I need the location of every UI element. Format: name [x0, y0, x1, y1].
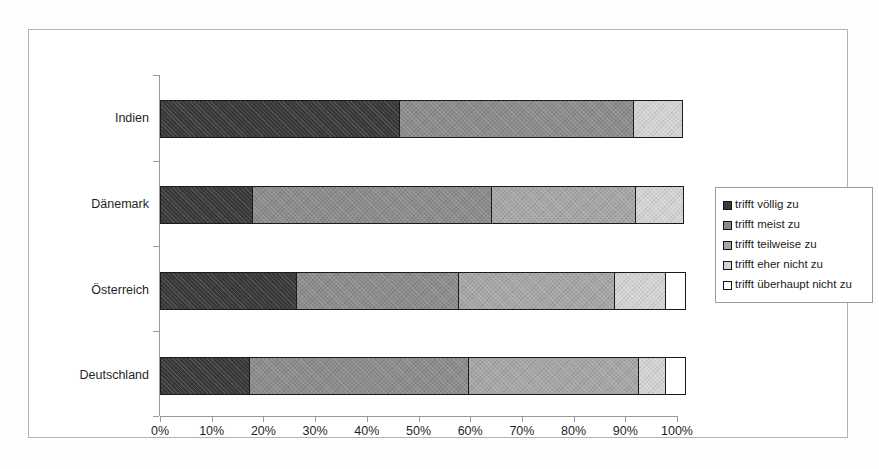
category-label-österreich: Österreich: [39, 283, 149, 297]
x-axis-label-80%: 80%: [549, 424, 599, 438]
segment-texture: [161, 273, 296, 309]
segment-texture: [161, 101, 400, 137]
y-axis-tick-0: [153, 75, 159, 76]
bar-segment-deutschland-4: [638, 357, 667, 395]
segment-texture: [492, 187, 635, 223]
bar-segment-österreich-1: [160, 272, 297, 310]
segment-texture: [297, 273, 458, 309]
category-label-deutschland: Deutschland: [39, 368, 149, 382]
x-axis-tick-20%: [263, 417, 264, 422]
bar-segment-dänemark-2: [252, 186, 492, 224]
scanned-page: IndienDänemarkÖsterreichDeutschland 0%10…: [0, 0, 879, 469]
legend-swatch-icon-4: [723, 261, 732, 270]
x-axis-tick-100%: [677, 417, 678, 422]
bar-segment-deutschland-3: [468, 357, 639, 395]
legend-item-1[interactable]: trifft völlig zu: [723, 195, 866, 215]
bar-segment-österreich-3: [458, 272, 616, 310]
x-axis-tick-0%: [160, 417, 161, 422]
x-axis-label-20%: 20%: [238, 424, 288, 438]
x-axis-label-0%: 0%: [135, 424, 185, 438]
legend-item-5[interactable]: trifft überhaupt nicht zu: [723, 275, 866, 295]
segment-texture: [459, 273, 615, 309]
x-axis-tick-80%: [574, 417, 575, 422]
x-axis-tick-90%: [625, 417, 626, 422]
bar-österreich: [160, 272, 686, 310]
y-axis-tick-3: [153, 331, 159, 332]
x-axis-tick-70%: [522, 417, 523, 422]
bar-segment-deutschland-2: [249, 357, 469, 395]
x-axis-label-50%: 50%: [394, 424, 444, 438]
legend-swatch-icon-5: [723, 281, 732, 290]
bar-segment-österreich-4: [614, 272, 666, 310]
bar-segment-österreich-2: [296, 272, 459, 310]
x-axis-tick-30%: [315, 417, 316, 422]
chart-frame: IndienDänemarkÖsterreichDeutschland 0%10…: [28, 29, 848, 438]
x-axis-label-60%: 60%: [445, 424, 495, 438]
segment-texture: [161, 358, 250, 394]
bar-segment-dänemark-3: [491, 186, 636, 224]
x-axis-tick-50%: [419, 417, 420, 422]
legend-item-4[interactable]: trifft eher nicht zu: [723, 255, 866, 275]
segment-texture: [615, 273, 665, 309]
bar-deutschland: [160, 357, 686, 395]
category-label-dänemark: Dänemark: [39, 197, 149, 211]
legend-label-5: trifft überhaupt nicht zu: [735, 279, 852, 291]
bar-segment-dänemark-4: [635, 186, 685, 224]
x-axis-tick-60%: [470, 417, 471, 422]
segment-texture: [469, 358, 638, 394]
segment-texture: [636, 187, 684, 223]
x-axis-label-70%: 70%: [497, 424, 547, 438]
x-axis-tick-40%: [367, 417, 368, 422]
bar-segment-österreich-5: [665, 272, 686, 310]
y-axis-tick-1: [153, 161, 159, 162]
y-axis-tick-2: [153, 246, 159, 247]
bar-segment-deutschland-1: [160, 357, 251, 395]
x-axis-label-30%: 30%: [290, 424, 340, 438]
bar-segment-indien-1: [160, 100, 401, 138]
legend-label-2: trifft meist zu: [735, 219, 800, 231]
x-axis-tick-10%: [212, 417, 213, 422]
legend-item-3[interactable]: trifft teilweise zu: [723, 235, 866, 255]
chart-legend: trifft völlig zutrifft meist zutrifft te…: [715, 187, 873, 303]
legend-swatch-icon-3: [723, 241, 732, 250]
legend-swatch-icon-1: [723, 201, 732, 210]
segment-texture: [253, 187, 491, 223]
legend-label-3: trifft teilweise zu: [735, 239, 817, 251]
segment-texture: [250, 358, 468, 394]
category-label-indien: Indien: [39, 111, 149, 125]
segment-texture: [400, 101, 634, 137]
legend-label-4: trifft eher nicht zu: [735, 259, 823, 271]
segment-texture: [639, 358, 666, 394]
legend-label-1: trifft völlig zu: [735, 199, 799, 211]
bar-segment-indien-2: [399, 100, 635, 138]
x-axis-label-10%: 10%: [187, 424, 237, 438]
y-axis-tick-4: [153, 416, 159, 417]
bar-indien: [160, 100, 683, 138]
bar-segment-indien-4: [633, 100, 683, 138]
bar-segment-dänemark-1: [160, 186, 254, 224]
legend-item-2[interactable]: trifft meist zu: [723, 215, 866, 235]
x-axis-label-40%: 40%: [342, 424, 392, 438]
bar-dänemark: [160, 186, 684, 224]
segment-texture: [161, 187, 253, 223]
x-axis-label-100%: 100%: [652, 424, 702, 438]
segment-texture: [634, 101, 682, 137]
bar-segment-deutschland-5: [665, 357, 686, 395]
x-axis-label-90%: 90%: [600, 424, 650, 438]
legend-swatch-icon-2: [723, 221, 732, 230]
